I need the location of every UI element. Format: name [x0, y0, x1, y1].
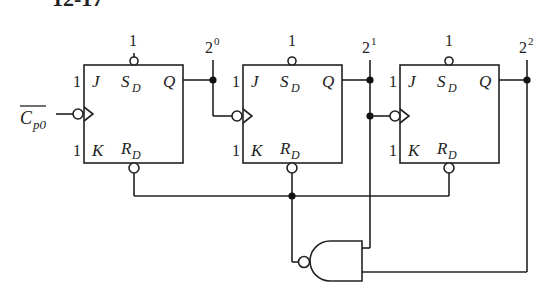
ff0-sd-bubble [130, 57, 138, 65]
nand-body [310, 241, 362, 281]
svg-text:2: 2 [519, 39, 527, 56]
svg-text:R: R [436, 139, 448, 158]
svg-text:C: C [20, 108, 33, 128]
ff0-rd-sub: D [131, 148, 141, 162]
ff0-j-value: 1 [73, 73, 81, 90]
svg-text:Q: Q [479, 72, 491, 91]
flip-flop-0: 1 1 J S D Q 1 K R D [56, 32, 183, 196]
ff1-sd-bubble [288, 57, 296, 65]
svg-text:D: D [447, 148, 457, 162]
svg-text:1: 1 [389, 73, 397, 90]
ff2-sd-bubble [445, 57, 453, 65]
ff1-rd-bubble [287, 163, 297, 173]
svg-text:D: D [290, 81, 300, 95]
ff2-rd-bubble [444, 163, 454, 173]
svg-text:Q: Q [322, 72, 334, 91]
svg-text:2: 2 [205, 39, 213, 56]
junction-dot [523, 76, 530, 83]
svg-text:S: S [437, 72, 446, 91]
output-2-1: 2 1 [342, 35, 390, 248]
nand-gate [292, 241, 362, 281]
svg-text:1: 1 [288, 32, 296, 49]
svg-text:2: 2 [528, 35, 534, 47]
svg-text:0: 0 [214, 35, 220, 47]
ff0-sd-label: S [121, 72, 130, 91]
flip-flop-2: 1 1 J S D Q 1 K R D [389, 32, 499, 196]
svg-text:1: 1 [445, 32, 453, 49]
junction-dot [366, 76, 373, 83]
ff0-q-label: Q [163, 72, 175, 91]
reset-bus [134, 192, 449, 199]
partial-title: 12-17 [52, 0, 103, 11]
svg-text:D: D [290, 148, 300, 162]
svg-text:1: 1 [232, 73, 240, 90]
svg-text:D: D [447, 81, 457, 95]
svg-text:1: 1 [371, 35, 377, 47]
flip-flop-1: 1 1 J S D Q 1 K R D [232, 32, 342, 262]
ff0-sd-sub: D [131, 81, 141, 95]
ff0-clock-bubble [73, 109, 83, 119]
ff0-sd-value: 1 [129, 32, 137, 49]
output-2-0: 2 0 [183, 35, 232, 116]
ff0-rd-bubble [129, 163, 139, 173]
svg-text:K: K [407, 141, 421, 160]
svg-text:S: S [280, 72, 289, 91]
ff0-rd-label: R [120, 139, 132, 158]
ff0-k-label: K [91, 141, 105, 160]
svg-text:R: R [279, 139, 291, 158]
svg-text:K: K [250, 141, 264, 160]
svg-text:1: 1 [232, 142, 240, 159]
clock-input-label: C p0 [20, 106, 47, 132]
svg-text:p0: p0 [32, 117, 47, 132]
ff2-clock-bubble [390, 111, 400, 121]
nand-output-bubble [299, 257, 310, 268]
svg-text:1: 1 [389, 142, 397, 159]
counter-circuit-diagram: 12-17 1 1 J S D Q 1 K R D C p0 2 [0, 0, 555, 291]
svg-text:2: 2 [362, 39, 370, 56]
ff1-clock-bubble [232, 111, 242, 121]
ff0-k-value: 1 [73, 142, 81, 159]
junction-dot [209, 76, 216, 83]
junction-dot [288, 192, 295, 199]
